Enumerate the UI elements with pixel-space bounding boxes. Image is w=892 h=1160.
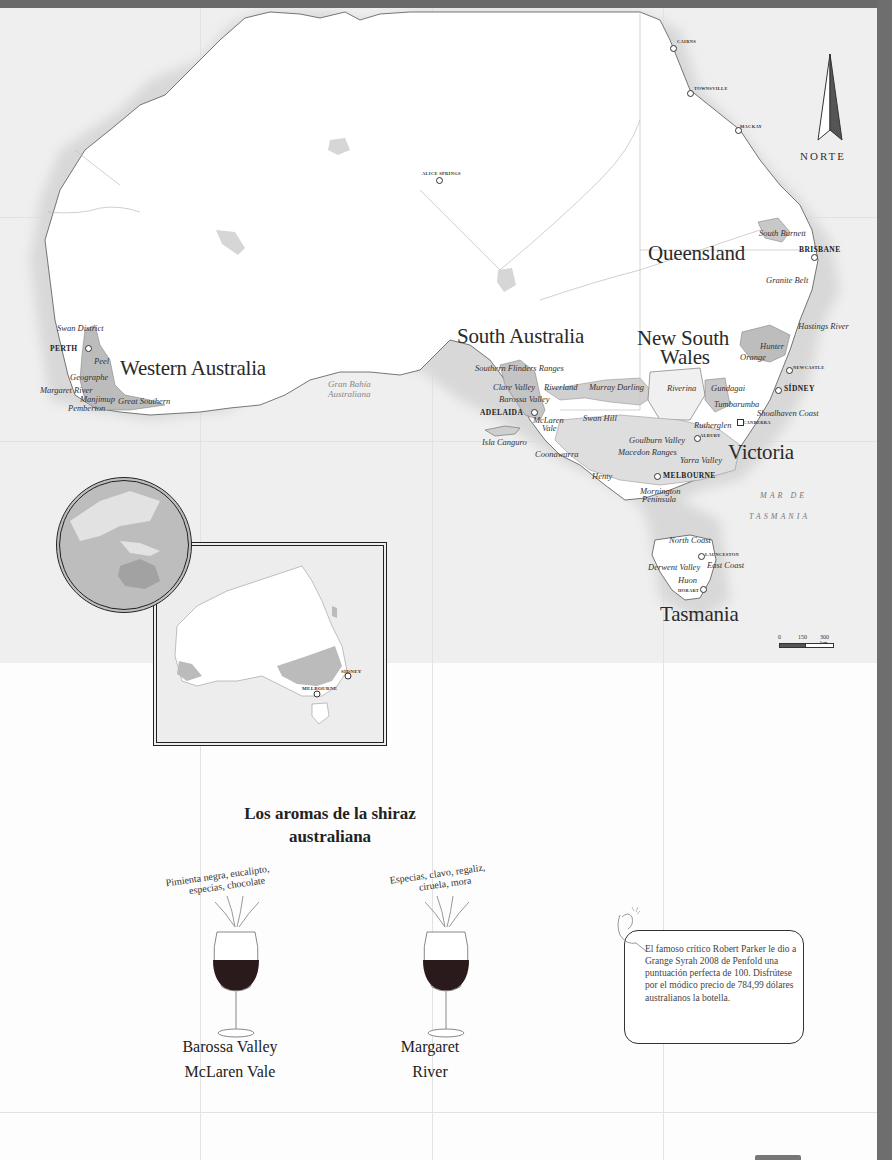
state-label-western-australia: Western Australia xyxy=(120,358,266,379)
right-border xyxy=(877,0,892,1160)
region-label: East Coast xyxy=(707,561,744,570)
region-label: Swan Hill xyxy=(583,414,617,423)
city-dot xyxy=(775,387,782,394)
region-label: Murray Darling xyxy=(589,383,644,392)
city-label-albury: ALBURY xyxy=(700,434,721,439)
city-label-townsville: TOWNSVILLE xyxy=(694,87,728,92)
region-label: Southern Flinders Ranges xyxy=(475,364,564,373)
aromas-title: Los aromas de la shiraz australiana xyxy=(180,803,480,849)
pointing-hand-icon xyxy=(612,905,650,955)
city-label-perth: PERTH xyxy=(50,345,78,353)
city-label-mackay: MACKAY xyxy=(740,125,762,130)
region-label: Peninsula xyxy=(642,495,676,504)
region-label: Great Southern xyxy=(118,397,170,406)
inset-australia-map xyxy=(157,546,383,742)
city-label-hobart: HOBART xyxy=(678,589,699,594)
grid-line xyxy=(0,1112,877,1113)
region-label: Henty xyxy=(592,472,612,481)
region-label: Orange xyxy=(740,353,766,362)
region-label: Swan District xyxy=(57,324,104,333)
region-label: Coonawarra xyxy=(535,450,578,459)
city-dot xyxy=(670,45,677,52)
trivia-note-box: El famoso crítico Robert Parker le dio a… xyxy=(624,930,804,1044)
state-label-new-south-wales-2: Wales xyxy=(660,347,710,368)
city-dot xyxy=(654,473,661,480)
region-label: Goulburn Valley xyxy=(629,436,685,445)
state-label-tasmania: Tasmania xyxy=(660,604,739,625)
region-label: Hunter xyxy=(760,342,784,351)
city-label-alice-springs: ALICE SPRINGS xyxy=(422,172,461,177)
wine-region-label-2: Margaret River xyxy=(330,1035,530,1085)
inset-map-frame: SÍDNEY MELBOURNE xyxy=(153,542,387,746)
region-label: Yarra Valley xyxy=(680,456,722,465)
region-label: Hastings River xyxy=(798,322,849,331)
city-label-sidney: SÍDNEY xyxy=(784,385,815,393)
city-dot xyxy=(85,345,92,352)
wine-glass-icon xyxy=(205,892,265,1042)
region-label: Derwent Valley xyxy=(648,563,700,572)
city-label-melbourne: MELBOURNE xyxy=(663,472,716,480)
region-label: Pemberton xyxy=(68,404,105,413)
region-label: Barossa Valley xyxy=(499,395,549,404)
region-label: Geographe xyxy=(70,373,108,382)
region-label: Huon xyxy=(678,576,697,585)
state-label-victoria: Victoria xyxy=(728,442,794,463)
scale-bar: 0 150 300 km xyxy=(778,634,838,648)
region-label: Macedon Ranges xyxy=(618,448,677,457)
region-label: Granite Belt xyxy=(766,276,808,285)
wine-region-label-1: Barossa Valley McLaren Vale xyxy=(130,1035,330,1085)
state-label-queensland: Queensland xyxy=(648,243,745,264)
inset-city-sidney: SÍDNEY xyxy=(341,669,362,674)
north-arrow-icon xyxy=(808,52,852,164)
city-label-brisbane: BRISBANE xyxy=(799,246,841,254)
city-label-cairns: CAIRNS xyxy=(677,40,696,45)
globe-locator xyxy=(56,477,192,613)
region-label: Peel xyxy=(94,357,109,366)
inset-city-melbourne: MELBOURNE xyxy=(302,686,337,691)
city-dot xyxy=(698,553,705,560)
page-tab xyxy=(755,1155,801,1160)
region-label: Riverina xyxy=(667,384,696,393)
region-label: Vale xyxy=(542,424,557,433)
region-label: Riverland xyxy=(544,383,578,392)
state-label-south-australia: South Australia xyxy=(457,326,584,347)
sea-label: MAR DE xyxy=(760,492,807,500)
north-label: NORTE xyxy=(800,151,846,162)
city-dot xyxy=(687,90,694,97)
city-dot xyxy=(811,254,818,261)
city-dot xyxy=(786,367,793,374)
region-label: Isla Canguro xyxy=(482,438,527,447)
region-label: Shoalhaven Coast xyxy=(757,409,819,418)
top-border xyxy=(0,0,892,8)
trivia-note-text: El famoso crítico Robert Parker le dio a… xyxy=(645,943,805,1004)
region-label: Rutherglen xyxy=(694,421,731,430)
bay-label: Gran Bahía Australiana xyxy=(328,380,371,400)
city-dot xyxy=(700,586,707,593)
sea-label: TASMANIA xyxy=(749,513,810,521)
wine-glass-icon xyxy=(415,892,475,1042)
region-label: Tumbarumba xyxy=(714,400,759,409)
city-label-adelaida: ADELAIDA xyxy=(480,409,523,417)
city-label-launceston: LAUNCESTON xyxy=(705,553,739,558)
region-label: Clare Valley xyxy=(493,383,535,392)
region-label: North Coast xyxy=(669,536,711,545)
region-label: South Burnett xyxy=(759,229,806,238)
city-dot xyxy=(436,177,443,184)
city-label-newcastle: NEWCASTLE xyxy=(793,366,824,371)
region-label: Gundagai xyxy=(711,384,745,393)
city-label-canberra: CANBERRA xyxy=(743,421,771,426)
